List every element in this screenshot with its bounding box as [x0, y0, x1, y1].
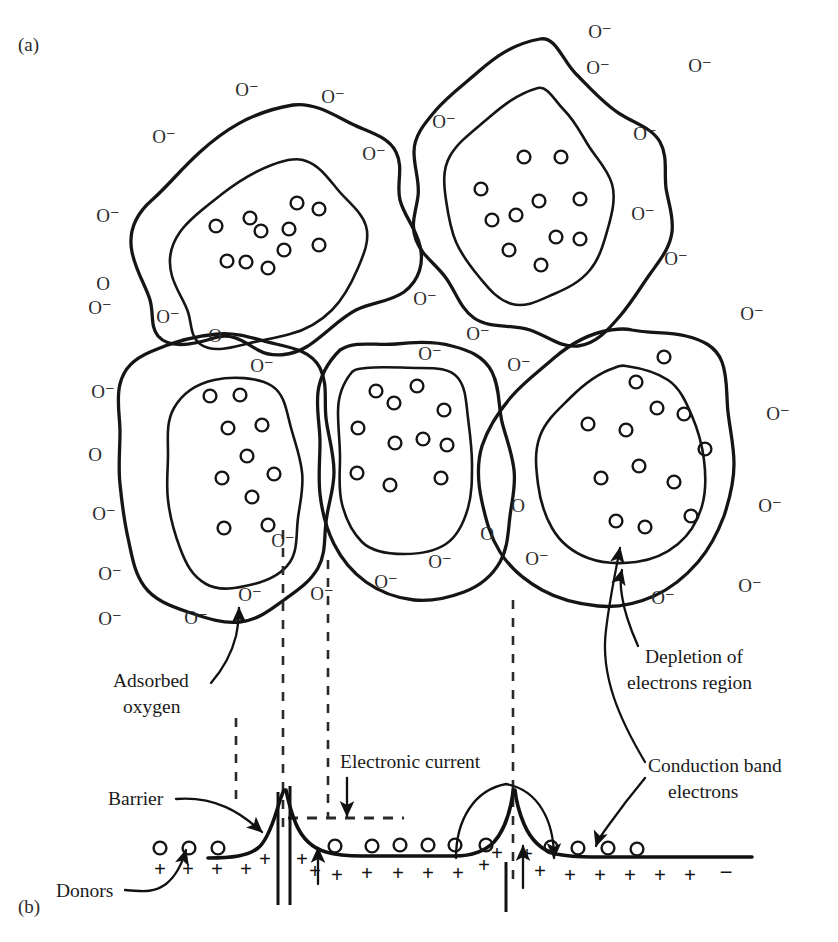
grain-top-right: [413, 39, 672, 346]
oxygen-ion-label: O⁻: [507, 354, 531, 375]
donor-plus: +: [361, 861, 373, 885]
depletion-leader: [621, 570, 639, 646]
oxygen-ion-label: O⁻: [321, 86, 345, 107]
donor-plus: +: [259, 847, 271, 871]
band-electron: [572, 842, 585, 855]
electron: [475, 183, 488, 196]
donor-plus: +: [564, 863, 576, 887]
oxygen-ion-label: O⁻: [235, 79, 259, 100]
electron: [441, 439, 454, 452]
electron: [388, 397, 401, 410]
donor-plus: +: [154, 857, 166, 881]
oxygen-ion-label: O⁻: [152, 126, 176, 147]
oxygen-ion-label: O⁻: [588, 21, 612, 42]
electron: [651, 402, 664, 415]
donor-plus: +: [684, 863, 696, 887]
oxygen-ion-label: O⁻: [362, 143, 386, 164]
electron: [216, 472, 229, 485]
electron: [240, 256, 253, 269]
oxygen-ion-label: O⁻: [418, 343, 442, 364]
donor-plus: +: [534, 859, 546, 883]
donor-plus: +: [654, 863, 666, 887]
electron: [222, 422, 235, 435]
band-electron: [154, 842, 167, 855]
oxygen-ion-label: O⁻: [466, 323, 490, 344]
electron: [685, 510, 698, 523]
adsorbed-oxygen-label-line2: oxygen: [123, 696, 181, 717]
conduction-leader-to-band: [596, 778, 645, 846]
electron: [291, 197, 304, 210]
donor-plus: +: [211, 857, 223, 881]
depletion-label-line1: Depletion of: [645, 646, 744, 667]
electron: [234, 389, 247, 402]
electron: [486, 214, 499, 227]
oxygen-ion-label: O⁻: [88, 297, 112, 318]
electron: [639, 521, 652, 534]
donor-plus: +: [309, 859, 321, 883]
electron: [370, 385, 383, 398]
electron: [241, 450, 254, 463]
oxygen-ion-label: O⁻: [766, 403, 790, 424]
electron: [246, 491, 259, 504]
electron: [210, 220, 223, 233]
electron: [555, 151, 568, 164]
grain-mid-left: [118, 334, 334, 623]
electron: [438, 404, 451, 417]
electron: [204, 390, 217, 403]
oxygen-ion-label: O⁻: [688, 55, 712, 76]
donor-plus: +: [422, 861, 434, 885]
oxygen-neutral-label: O: [208, 325, 222, 346]
electron: [417, 433, 430, 446]
electron: [283, 223, 296, 236]
oxygen-ion-label: O⁻: [758, 495, 782, 516]
band-electron: [366, 840, 379, 853]
oxygen-ion-label: O⁻: [664, 248, 688, 269]
electron: [389, 437, 402, 450]
donor-plus: +: [594, 863, 606, 887]
oxygen-ion-label: O⁻: [651, 587, 675, 608]
oxygen-ion-label: O⁻: [98, 608, 122, 629]
donors-label: Donors: [56, 880, 113, 901]
electron: [278, 244, 291, 257]
electron: [633, 460, 646, 473]
oxygen-neutral-label: O: [480, 523, 494, 544]
oxygen-ion-label: O⁻: [96, 205, 120, 226]
band-electron: [631, 843, 644, 856]
donor-plus: +: [452, 861, 464, 885]
conduction-band-edge: [286, 790, 455, 856]
oxygen-ion-label: O⁻: [631, 203, 655, 224]
grain-inner-core: [536, 366, 705, 564]
oxygen-ion-label: O⁻: [92, 503, 116, 524]
electron: [384, 479, 397, 492]
electron: [550, 231, 563, 244]
conduction-band-edge: [455, 790, 513, 856]
oxygen-ion-label: O⁻: [250, 355, 274, 376]
electron: [582, 418, 595, 431]
donor-sign-group: + + + + + + + + + + + + + + + + + + + + …: [154, 841, 733, 887]
oxygen-ion-label: O⁻: [98, 563, 122, 584]
electron: [620, 424, 633, 437]
band-electron: [329, 840, 342, 853]
electron: [699, 443, 712, 456]
electron: [256, 419, 269, 432]
oxygen-ion-label: O⁻: [633, 123, 657, 144]
conduction-label-line1: Conduction band: [648, 755, 782, 776]
electron: [244, 212, 257, 225]
conduction-band-edge: [208, 790, 284, 858]
electron: [610, 515, 623, 528]
electron: [218, 522, 231, 535]
electron: [678, 408, 691, 421]
oxygen-ion-label: O⁻: [310, 583, 334, 604]
electron: [411, 380, 424, 393]
band-electron: [394, 839, 407, 852]
electron: [595, 472, 608, 485]
terminal-minus-sign: −: [719, 860, 732, 885]
adsorbed-oxygen-label-line1: Adsorbed: [113, 670, 189, 691]
electron: [533, 195, 546, 208]
oxygen-ion-label: O⁻: [374, 571, 398, 592]
oxygen-ion-label: O⁻: [238, 584, 262, 605]
electron: [435, 472, 448, 485]
electron: [630, 376, 643, 389]
donor-plus: +: [240, 857, 252, 881]
oxygen-ion-label: O⁻: [740, 303, 764, 324]
